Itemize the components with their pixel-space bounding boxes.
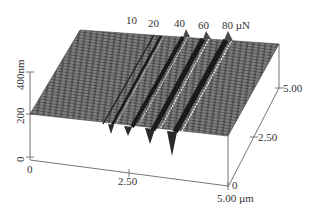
- spike-60: [145, 128, 155, 144]
- spike-20: [108, 124, 114, 134]
- z-tick-400: 400nm: [15, 59, 26, 90]
- load-label-60: 60: [198, 20, 209, 31]
- y-tick-250: 2.50: [258, 132, 277, 143]
- x-tick-500: 5.00 µm: [217, 193, 254, 204]
- load-label-20: 20: [148, 18, 159, 29]
- load-label-40: 40: [174, 18, 185, 29]
- afm-surface-plot: [0, 0, 312, 212]
- x-tick-0: 0: [27, 164, 33, 175]
- z-tick-0: 0: [15, 157, 26, 163]
- spike-80: [167, 131, 177, 156]
- surface-mesh: [30, 29, 279, 156]
- y-tick-0: 0: [232, 180, 238, 191]
- z-tick-200: 200: [15, 108, 26, 125]
- load-label-80: 80 µN: [222, 20, 250, 31]
- load-label-10: 10: [126, 15, 137, 26]
- y-tick-500: 5.00: [283, 83, 302, 94]
- x-tick-250: 2.50: [118, 176, 137, 187]
- spike-40: [124, 126, 132, 136]
